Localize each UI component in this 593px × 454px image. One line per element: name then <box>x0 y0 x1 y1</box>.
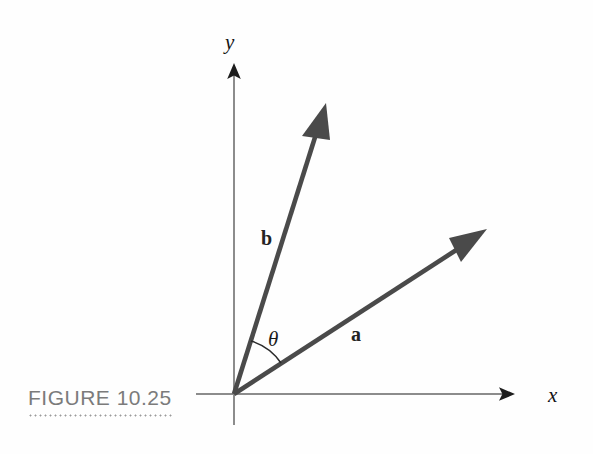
vector-a-shaft <box>234 245 464 394</box>
x-axis: x <box>196 383 558 407</box>
theta-label: θ <box>268 327 278 351</box>
vector-a-arrowhead <box>449 229 487 262</box>
vector-b: b <box>234 103 330 394</box>
figure-caption-block: FIGURE 10.25 <box>28 386 188 417</box>
vector-b-arrowhead <box>302 103 330 140</box>
vector-a-label: a <box>351 323 361 345</box>
vector-b-label: b <box>261 227 272 249</box>
x-axis-label: x <box>547 383 558 407</box>
y-axis: y <box>223 30 235 425</box>
figure-container: x y a b θ FIGURE 10.25 <box>0 0 593 454</box>
vector-b-shaft <box>234 131 317 394</box>
vector-a: a <box>234 229 487 394</box>
figure-caption-text: FIGURE 10.25 <box>28 386 188 410</box>
y-axis-label: y <box>223 30 235 54</box>
figure-caption-dotted-rule <box>28 414 173 417</box>
